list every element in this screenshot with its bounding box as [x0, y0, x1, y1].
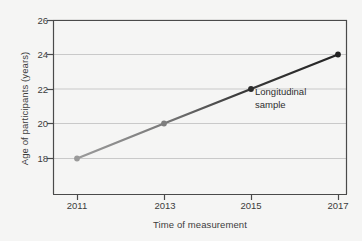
- annotation-longitudinal-sample: Longitudinal sample: [255, 86, 345, 111]
- chart-plot-svg: [0, 0, 362, 241]
- data-point-2013: [161, 121, 167, 127]
- data-point-2015: [248, 86, 254, 92]
- annotation-line-1: Longitudinal: [255, 86, 345, 99]
- annotation-line-2: sample: [255, 99, 345, 112]
- data-point-2011: [74, 156, 80, 162]
- chart-container: Age of participants (years) Time of meas…: [0, 0, 362, 241]
- data-point-2017: [335, 52, 341, 58]
- y-axis-ticks: [47, 21, 53, 159]
